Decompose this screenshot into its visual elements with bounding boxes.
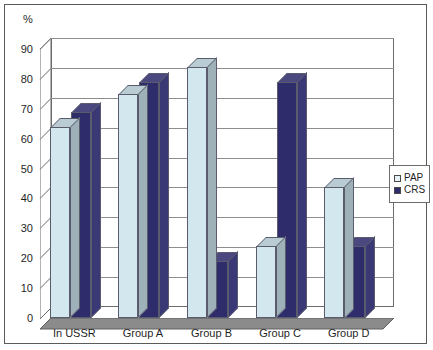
bar-front-face <box>256 246 276 318</box>
bar-side-face <box>138 84 148 318</box>
chart-frame: % 0102030405060708090 In USSRGroup AGrou… <box>4 4 427 344</box>
legend: PAP CRS <box>389 165 430 203</box>
gridline <box>51 128 394 129</box>
bar-pap-group-d <box>324 187 344 319</box>
bar-side-face <box>70 117 80 318</box>
bar-side-face <box>276 236 286 318</box>
bar-side-face <box>91 102 101 318</box>
pap-swatch-icon <box>394 175 401 182</box>
bar-side-face <box>365 236 375 318</box>
y-axis-tick-label: 90 <box>21 43 33 55</box>
bar-side-face <box>159 72 169 318</box>
bar-pap-group-c <box>256 246 276 318</box>
y-axis-tick-label: 80 <box>21 73 33 85</box>
y-axis-tick-label: 40 <box>21 192 33 204</box>
bar-pap-group-b <box>187 67 207 318</box>
gridline <box>51 68 394 69</box>
y-axis-tick-label: 20 <box>21 252 33 264</box>
bar-side-face <box>297 72 307 318</box>
y-axis-tick-label: 10 <box>21 282 33 294</box>
x-axis-tick-label: Group B <box>191 327 232 339</box>
legend-item-pap: PAP <box>394 173 425 183</box>
bar-front-face <box>50 127 70 318</box>
gridline <box>51 38 394 39</box>
bar-side-face <box>207 57 217 318</box>
bar-front-face <box>118 94 138 318</box>
x-axis-tick-label: Group A <box>123 327 163 339</box>
y-axis-tick-label: 60 <box>21 133 33 145</box>
y-axis-tick-label: 70 <box>21 103 33 115</box>
x-axis-tick-label: Group D <box>328 327 370 339</box>
y-axis-unit-label: % <box>23 13 33 25</box>
bar-side-face <box>344 177 354 319</box>
y-axis-tick-label: 30 <box>21 222 33 234</box>
y-axis-tick-label: 50 <box>21 163 33 175</box>
bar-pap-group-a <box>118 94 138 318</box>
y-axis-tick-label: 0 <box>27 312 33 324</box>
x-axis-tick-label: In USSR <box>53 327 96 339</box>
bar-pap-in-ussr <box>50 127 70 318</box>
bar-front-face <box>324 187 344 319</box>
gridline <box>51 158 394 159</box>
legend-label-pap: PAP <box>404 173 423 183</box>
bar-front-face <box>187 67 207 318</box>
bar-side-face <box>228 251 238 318</box>
x-axis-tick-label: Group C <box>259 327 301 339</box>
crs-swatch-icon <box>394 187 401 194</box>
legend-label-crs: CRS <box>404 185 425 195</box>
plot-area: 0102030405060708090 <box>40 49 383 318</box>
gridline <box>51 98 394 99</box>
legend-item-crs: CRS <box>394 185 425 195</box>
